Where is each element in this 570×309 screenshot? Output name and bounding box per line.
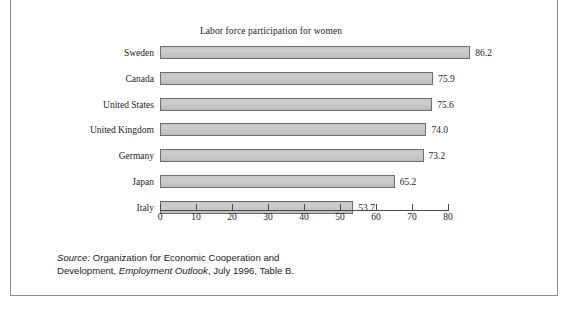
- bar-value-label: 75.9: [433, 72, 455, 86]
- x-axis-tick-label: 0: [158, 212, 163, 222]
- chart-area: Labor force participation for women Swed…: [11, 0, 559, 235]
- bar-row: United Kingdom74.0: [11, 123, 559, 137]
- x-axis-tick: [376, 204, 377, 211]
- bar-category-label: Italy: [137, 201, 154, 215]
- bar-value-label: 75.6: [432, 98, 454, 112]
- bar-category-label: Germany: [119, 149, 154, 163]
- x-axis-tick-label: 60: [371, 212, 381, 222]
- bar-value-label: 73.2: [424, 149, 446, 163]
- x-axis-tick-label: 40: [299, 212, 309, 222]
- x-axis-tick: [268, 204, 269, 211]
- x-axis-tick: [232, 204, 233, 211]
- bar-row: Japan65.2: [11, 175, 559, 189]
- source-label: Source:: [57, 252, 90, 263]
- bar-category-label: Sweden: [124, 46, 154, 60]
- bar-category-label: Japan: [132, 175, 154, 189]
- source-line2-post: , July 1996, Table B.: [208, 265, 294, 276]
- x-axis-tick: [412, 204, 413, 211]
- x-axis-tick-label: 70: [407, 212, 417, 222]
- bar: [160, 149, 424, 162]
- x-axis-tick: [160, 204, 161, 211]
- bar-row: Sweden86.2: [11, 46, 559, 60]
- source-line2-pre: Development,: [57, 265, 119, 276]
- source-note: Source: Organization for Economic Cooper…: [57, 252, 387, 277]
- source-line1: Organization for Economic Cooperation an…: [90, 252, 279, 263]
- bar-category-label: United States: [103, 98, 154, 112]
- bar-category-label: Canada: [126, 72, 155, 86]
- bar-row: Canada75.9: [11, 72, 559, 86]
- x-axis-tick-label: 80: [443, 212, 453, 222]
- bar-value-label: 65.2: [395, 175, 417, 189]
- bar: [160, 123, 426, 136]
- bar-category-label: United Kingdom: [90, 123, 154, 137]
- x-axis-tick: [196, 204, 197, 211]
- source-publication-title: Employment Outlook: [119, 265, 208, 276]
- x-axis-tick-label: 10: [191, 212, 201, 222]
- bar: [160, 72, 433, 85]
- x-axis-tick: [448, 204, 449, 211]
- bar: [160, 46, 470, 59]
- bar-row: United States75.6: [11, 98, 559, 112]
- x-axis-tick: [340, 204, 341, 211]
- x-axis-tick: [304, 204, 305, 211]
- x-axis-tick-label: 30: [263, 212, 273, 222]
- bar-row: Germany73.2: [11, 149, 559, 163]
- x-axis-tick-label: 20: [227, 212, 237, 222]
- bar: [160, 175, 395, 188]
- bar-value-label: 86.2: [470, 46, 492, 60]
- x-axis: 01020304050607080: [160, 200, 460, 230]
- bar: [160, 98, 432, 111]
- figure-frame: Labor force participation for women Swed…: [10, 0, 558, 296]
- bar-value-label: 74.0: [426, 123, 448, 137]
- x-axis-tick-label: 50: [335, 212, 345, 222]
